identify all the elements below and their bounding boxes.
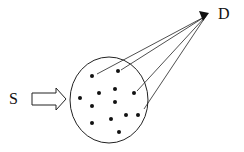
- destination-label: D: [218, 6, 230, 22]
- ray-line: [97, 16, 206, 74]
- ray-line: [144, 16, 206, 109]
- source-arrow: [32, 88, 66, 110]
- particle-dot: [113, 87, 117, 91]
- particle-dot: [132, 91, 136, 95]
- particle-dot: [90, 104, 94, 108]
- particle-dot: [113, 100, 117, 104]
- particle-dot: [90, 121, 94, 125]
- particle-dot: [90, 74, 94, 78]
- source-label: S: [9, 91, 18, 107]
- diagram-canvas: [0, 0, 244, 152]
- rays-to-destination: [97, 16, 206, 109]
- particle-dots: [78, 69, 140, 134]
- particle-dot: [78, 96, 82, 100]
- particle-dot: [117, 130, 121, 134]
- particle-dot: [109, 117, 113, 121]
- particle-dot: [97, 91, 101, 95]
- particle-dot: [136, 113, 140, 117]
- particle-dot: [116, 69, 120, 73]
- particle-cloud-circle: [70, 57, 148, 143]
- particle-dot: [124, 113, 128, 117]
